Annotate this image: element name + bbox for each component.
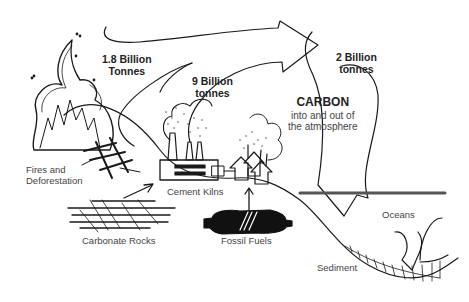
- emission-particles: [165, 103, 266, 148]
- houses-icon: [230, 114, 282, 184]
- label-cement-kilns: Cement Kilns: [167, 187, 224, 198]
- flow-label-kilns: 9 Billion tonnes: [192, 75, 233, 99]
- flow-unit-fires: Tonnes: [102, 65, 152, 77]
- carbon-title: CARBON: [288, 96, 358, 110]
- flow-label-oceans: 2 Billion tonnes: [336, 51, 377, 75]
- label-sediment: Sediment: [317, 263, 357, 274]
- land-profile: [64, 105, 458, 278]
- flow-label-fires: 1.8 Billion Tonnes: [102, 53, 152, 77]
- label-fossil-fuels: Fossil Fuels: [221, 236, 272, 247]
- label-oceans: Oceans: [382, 210, 415, 221]
- label-fires-deforestation: Fires and Deforestation: [26, 165, 83, 187]
- carbon-cycle-diagram: [0, 0, 469, 302]
- label-carbonate-rocks: Carbonate Rocks: [82, 236, 155, 247]
- arrow-rocks-to-kilns: [124, 184, 153, 198]
- carbon-subtitle-1: into and out of: [288, 110, 358, 122]
- carbon-center-label: CARBON into and out of the atmosphere: [288, 96, 358, 133]
- flow-amount-fires: 1.8 Billion: [102, 53, 152, 65]
- factory-icon: [160, 99, 235, 180]
- carbonate-rocks-icon: [68, 200, 175, 232]
- flow-amount-oceans: 2 Billion: [336, 51, 377, 63]
- label-fires-line2: Deforestation: [26, 176, 83, 187]
- fire-icon: [31, 33, 113, 150]
- flow-unit-kilns: tonnes: [192, 87, 233, 99]
- flow-unit-oceans: tonnes: [336, 63, 377, 75]
- arrow-fossil-to-houses: [245, 188, 253, 210]
- carbon-subtitle-2: the atmosphere: [288, 121, 358, 133]
- flow-amount-kilns: 9 Billion: [192, 75, 233, 87]
- fossil-fuel-deposit-icon: [204, 210, 292, 234]
